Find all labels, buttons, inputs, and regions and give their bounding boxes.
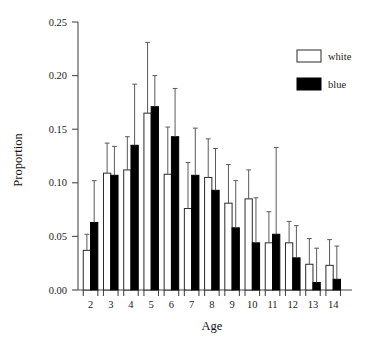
y-axis-group: 0.000.050.100.150.200.25 (49, 17, 78, 296)
y-tick-label: 0.20 (49, 70, 67, 81)
bar-white (285, 243, 292, 290)
legend-label-blue: blue (328, 79, 346, 90)
x-tick-label: 4 (128, 299, 134, 310)
legend-swatch-white (297, 50, 321, 62)
bar-blue (192, 175, 199, 290)
y-tick-label: 0.05 (49, 231, 67, 242)
bar-blue (273, 234, 280, 290)
bar-white (103, 173, 110, 290)
bar-blue (333, 279, 340, 290)
x-tick-label: 8 (209, 299, 214, 310)
bar-white (265, 243, 272, 290)
legend-label-white: white (328, 51, 352, 62)
bar-white (83, 250, 90, 290)
bar-white (184, 209, 191, 290)
x-tick-label: 11 (267, 299, 277, 310)
bar-white (144, 113, 151, 290)
legend-swatch-blue (297, 78, 321, 90)
y-tick-label: 0.15 (49, 124, 67, 135)
y-tick-group: 0.000.050.100.150.200.25 (49, 17, 78, 296)
bar-blue (91, 222, 98, 290)
x-tick-group: 234567891011121314 (83, 290, 340, 310)
bar-blue (151, 107, 158, 290)
y-tick-label: 0.10 (49, 177, 67, 188)
bar-white (164, 174, 171, 290)
bar-white (225, 203, 232, 290)
chart-container: 0.000.050.100.150.200.25 234567891011121… (0, 0, 370, 342)
x-tick-label: 2 (88, 299, 93, 310)
x-tick-label: 7 (189, 299, 194, 310)
x-tick-label: 13 (308, 299, 319, 310)
x-axis-group: 234567891011121314 (78, 290, 352, 310)
y-tick-label: 0.25 (49, 17, 67, 28)
legend-item-white: white (297, 50, 352, 62)
bar-blue (232, 228, 239, 290)
bar-blue (313, 282, 320, 290)
bar-blue (131, 145, 138, 290)
x-tick-label: 10 (247, 299, 258, 310)
bar-blue (252, 243, 259, 290)
y-axis-title: Proportion (11, 133, 25, 187)
legend-item-blue: blue (297, 78, 346, 90)
x-tick-label: 3 (108, 299, 113, 310)
x-tick-label: 12 (288, 299, 299, 310)
bar-blue (111, 175, 118, 290)
bars-group (83, 107, 340, 290)
bar-chart-svg: 0.000.050.100.150.200.25 234567891011121… (0, 0, 370, 342)
y-tick-label: 0.00 (49, 285, 67, 296)
legend: white blue (297, 50, 352, 90)
x-tick-label: 6 (169, 299, 174, 310)
bar-white (326, 265, 333, 290)
bar-white (306, 264, 313, 290)
bar-white (124, 170, 131, 290)
x-axis-title: Age (202, 319, 223, 333)
bar-white (245, 199, 252, 290)
bar-white (205, 177, 212, 290)
x-tick-label: 14 (328, 299, 339, 310)
bar-blue (212, 190, 219, 290)
x-tick-label: 9 (229, 299, 234, 310)
x-tick-label: 5 (149, 299, 154, 310)
bar-blue (171, 137, 178, 290)
bar-blue (293, 258, 300, 290)
